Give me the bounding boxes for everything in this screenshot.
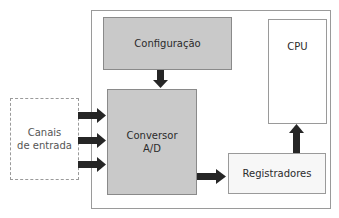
arrow-right-icon	[78, 133, 106, 148]
arrow-right-icon	[78, 157, 106, 172]
arrow-up-icon	[289, 124, 304, 153]
arrow-right-icon	[78, 108, 106, 123]
arrows-layer	[0, 0, 339, 218]
arrow-right-icon	[197, 169, 226, 184]
arrow-down-icon	[153, 70, 168, 88]
